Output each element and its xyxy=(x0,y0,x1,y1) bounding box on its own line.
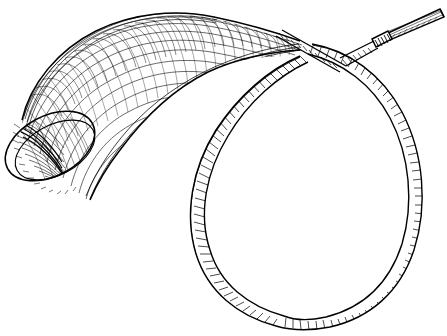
engraving-canvas xyxy=(0,0,447,336)
powder-horn-illustration: Black and white engraving of a curved po… xyxy=(0,0,447,336)
